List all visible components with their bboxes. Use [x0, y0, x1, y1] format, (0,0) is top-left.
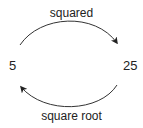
node-twenty-five: 25	[123, 59, 137, 72]
squared-label: squared	[0, 7, 143, 19]
square-root-arrow-icon	[21, 85, 117, 107]
node-five: 5	[9, 59, 16, 72]
square-root-label: square root	[0, 110, 143, 122]
function-inverse-diagram: squared 5 25 square root	[0, 0, 143, 128]
squared-arrow-icon	[20, 21, 117, 45]
